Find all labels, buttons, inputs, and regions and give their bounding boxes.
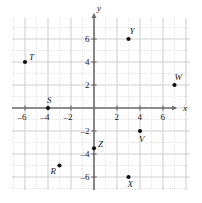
point-label-t: T [29,53,34,62]
x-tick-label: –4 [41,113,50,122]
grid-major-lines [12,18,190,190]
data-point-w [172,83,176,87]
data-point-y [126,37,130,41]
x-tick-label: 6 [161,113,166,122]
point-label-w: W [175,73,183,82]
point-label-v: V [139,135,145,144]
point-label-s: S [47,96,52,105]
x-axis-label: x [183,104,187,113]
coordinate-plane [0,0,202,203]
y-tick-label: –4 [81,150,90,159]
y-axis-label: y [97,4,101,13]
y-tick-label: 4 [85,58,90,67]
x-tick-label: –6 [18,113,27,122]
point-label-y: Y [130,27,135,36]
y-tick-label: –6 [81,173,90,182]
point-label-r: R [51,167,57,176]
y-axis-arrow [91,13,96,18]
data-point-s [46,106,50,110]
y-tick-label: –2 [81,127,90,136]
data-point-z [92,146,96,150]
y-tick-label: 6 [85,35,90,44]
data-point-v [138,129,142,133]
x-tick-label: 4 [138,113,143,122]
data-point-r [57,163,61,167]
y-tick-label: 2 [85,81,90,90]
point-label-x: X [128,180,134,189]
point-label-z: Z [98,140,103,149]
x-tick-label: 2 [115,113,120,122]
x-tick-label: –2 [64,113,73,122]
data-point-t [23,60,27,64]
